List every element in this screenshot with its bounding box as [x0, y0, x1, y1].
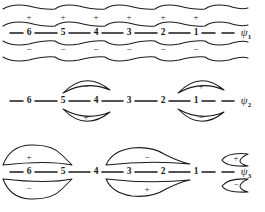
psi1-top-inner-wave	[3, 22, 248, 26]
psi1-bottom-outer-wave	[3, 57, 248, 61]
psi1-atom-2: 2	[161, 28, 166, 38]
molecular-orbital-figure: 6 5 4 3 2 1 + + + + + + − − − − − − ψ1 6…	[0, 0, 265, 212]
psi2-atom-5: 5	[61, 96, 66, 106]
psi2-lobe-sign-left-bottom: +	[83, 113, 88, 122]
psi1-top-sign-2: +	[160, 13, 165, 22]
psi1-atom-3: 3	[127, 28, 132, 38]
psi3-lobe-sign-right-bottom: −	[233, 180, 238, 189]
psi3-atom-5: 5	[61, 167, 66, 177]
psi3-atom-1: 1	[194, 167, 199, 177]
psi1-top-sign-4: +	[93, 13, 98, 22]
psi1-atom-4: 4	[94, 28, 99, 38]
psi2-atom-1: 1	[194, 96, 199, 106]
psi1-atom-6: 6	[27, 28, 32, 38]
psi1-bottom-sign-4: −	[93, 45, 98, 54]
psi3-atom-6: 6	[27, 167, 32, 177]
psi3-lobe-sign-left-top: +	[26, 153, 31, 162]
psi3-atom-4: 4	[94, 167, 99, 177]
psi1-bottom-sign-2: −	[160, 45, 165, 54]
psi3-lobe-sign-mid-top: −	[144, 153, 149, 162]
psi3-lobe-left-bottom	[3, 179, 72, 199]
psi2-orbital-label: ψ2	[241, 95, 251, 109]
psi3-atom-3: 3	[127, 167, 132, 177]
psi1-orbital-label: ψ1	[241, 27, 251, 41]
psi1-bottom-sign-6: −	[26, 45, 31, 54]
psi1-atom-1: 1	[194, 28, 199, 38]
psi3-group	[3, 145, 248, 199]
psi1-top-outer-wave	[3, 5, 248, 9]
psi1-atom-5: 5	[61, 28, 66, 38]
psi2-lobe-sign-right-top: +	[198, 82, 203, 91]
psi2-atom-4: 4	[94, 96, 99, 106]
psi3-lobe-left-top	[3, 145, 72, 165]
psi1-bottom-sign-1: −	[193, 45, 198, 54]
psi3-lobe-sign-right-top: +	[233, 154, 238, 163]
psi2-lobe-sign-left-top: −	[83, 82, 88, 91]
psi2-atom-3: 3	[127, 96, 132, 106]
psi2-atom-6: 6	[27, 96, 32, 106]
psi1-bottom-sign-5: −	[60, 45, 65, 54]
psi1-bottom-sign-3: −	[126, 45, 131, 54]
psi1-top-sign-3: +	[126, 13, 131, 22]
psi1-top-sign-6: +	[26, 13, 31, 22]
psi1-top-sign-1: +	[193, 13, 198, 22]
psi3-orbital-label: ψ3	[241, 166, 251, 180]
psi3-lobe-sign-mid-bottom: +	[144, 185, 149, 194]
psi1-top-sign-5: +	[60, 13, 65, 22]
psi2-atom-2: 2	[161, 96, 166, 106]
psi2-lobe-sign-right-bottom: −	[198, 113, 203, 122]
psi3-lobe-sign-left-bottom: −	[26, 184, 31, 193]
orbital-diagram-svg	[0, 0, 265, 212]
psi3-atom-2: 2	[161, 167, 166, 177]
